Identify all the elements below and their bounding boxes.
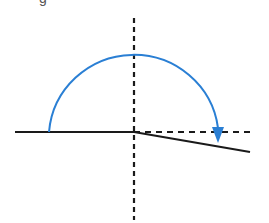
terminal-ray (134, 132, 250, 152)
arrowhead-icon (212, 127, 224, 143)
angle-rotation-diagram (0, 0, 269, 223)
